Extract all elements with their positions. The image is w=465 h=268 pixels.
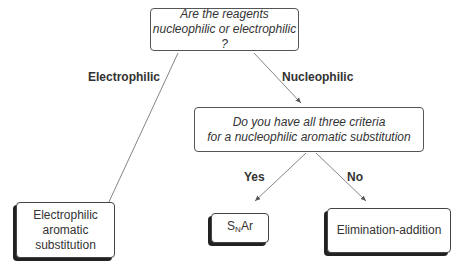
question-line-1: Are the reagents bbox=[180, 7, 269, 22]
question-reagent-type: Are the reagents nucleophilic or electro… bbox=[150, 8, 299, 51]
result-line-2: aromatic bbox=[42, 223, 88, 238]
result-snar: SNAr bbox=[211, 213, 269, 243]
edge-label-nucleophilic: Nucleophilic bbox=[282, 70, 353, 84]
result-line-3: substitution bbox=[35, 238, 96, 253]
result-elimination-addition: Elimination-addition bbox=[327, 208, 451, 253]
edge-label-electrophilic: Electrophilic bbox=[88, 70, 160, 84]
result-line-1: Electrophilic bbox=[33, 208, 98, 223]
question-line-1: Do you have all three criteria bbox=[233, 115, 386, 130]
question-snar-criteria: Do you have all three criteria for a nuc… bbox=[194, 107, 424, 152]
edge-label-no: No bbox=[347, 170, 363, 184]
question-line-2: for a nucleophilic aromatic substitution bbox=[207, 130, 410, 145]
result-electrophilic-substitution: Electrophilic aromatic substitution bbox=[16, 202, 115, 258]
question-line-2: nucleophilic or electrophilic ? bbox=[151, 22, 298, 52]
result-label: Elimination-addition bbox=[337, 223, 442, 238]
snar-label: SNAr bbox=[227, 219, 253, 237]
edge-label-yes: Yes bbox=[244, 170, 265, 184]
